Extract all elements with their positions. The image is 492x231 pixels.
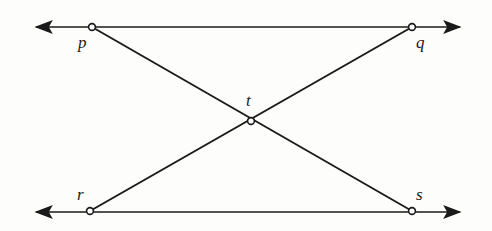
vertex-label-r: r [77, 186, 84, 203]
vertex-p [89, 24, 96, 31]
vertex-label-s: s [416, 186, 423, 203]
vertex-s [409, 208, 416, 215]
vertex-t [248, 118, 255, 125]
vertex-label-t: t [246, 92, 251, 109]
vertex-label-p: p [78, 34, 87, 51]
vertex-q [409, 24, 416, 31]
vertex-label-q: q [416, 34, 425, 51]
geometry-diagram: p q t r s [0, 0, 492, 231]
vertex-r [87, 208, 94, 215]
